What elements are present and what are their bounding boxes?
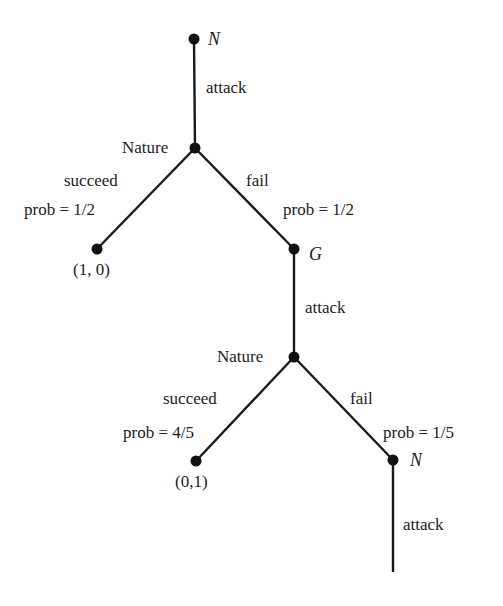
game-tree-svg: N attack Nature succeed prob = 1/2 fail …	[0, 0, 503, 606]
label-fail-2: fail	[350, 389, 373, 408]
label-fail-1: fail	[246, 171, 269, 190]
node-g	[289, 244, 300, 255]
node-nature-2	[289, 352, 300, 363]
node-leaf-1	[92, 244, 103, 255]
label-player-g: G	[309, 244, 322, 264]
label-bottom-player: N	[409, 450, 423, 470]
label-succeed-2: succeed	[163, 389, 217, 408]
node-leaf-2	[191, 456, 202, 467]
label-payoff-2: (0,1)	[175, 472, 208, 491]
edge-n-to-nature1	[194, 39, 195, 148]
node-n-bottom	[388, 455, 399, 466]
label-attack-3: attack	[403, 515, 444, 534]
edge-nature2-to-leaf2	[196, 357, 294, 461]
label-nature-2: Nature	[217, 347, 263, 366]
edge-nature1-to-leaf1	[97, 148, 195, 249]
label-succeed-1: succeed	[64, 171, 118, 190]
edge-nature1-to-g	[195, 148, 294, 249]
label-attack-2: attack	[305, 298, 346, 317]
label-prob-fail-2: prob = 1/5	[383, 423, 454, 442]
label-prob-fail-1: prob = 1/2	[283, 200, 354, 219]
label-prob-succeed-1: prob = 1/2	[24, 200, 95, 219]
label-nature-1: Nature	[122, 138, 168, 157]
label-top-player: N	[207, 29, 221, 49]
label-prob-succeed-2: prob = 4/5	[123, 423, 194, 442]
label-payoff-1: (1, 0)	[73, 260, 110, 279]
node-nature-1	[190, 143, 201, 154]
edge-nature2-to-n2	[294, 357, 393, 460]
node-n-top	[189, 34, 200, 45]
game-tree-diagram: N attack Nature succeed prob = 1/2 fail …	[0, 0, 503, 606]
label-attack-1: attack	[206, 78, 247, 97]
